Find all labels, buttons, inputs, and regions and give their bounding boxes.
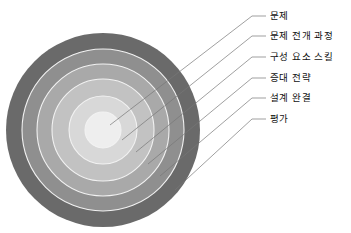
ring-label-3: 구성 요소 스킬 bbox=[270, 51, 333, 62]
ring-label-4: 증대 전략 bbox=[270, 72, 311, 83]
ring-1-problem[interactable] bbox=[85, 112, 121, 148]
ring-label-1: 문제 bbox=[270, 10, 289, 21]
ring-label-5: 설계 완결 bbox=[270, 92, 311, 103]
ring-group bbox=[6, 33, 200, 227]
ring-label-6: 평가 bbox=[270, 113, 289, 124]
diagram-page: 문제 문제 전개 과정 구성 요소 스킬 증대 전략 설계 완결 평가 bbox=[0, 0, 351, 233]
ring-label-2: 문제 전개 과정 bbox=[270, 30, 333, 41]
